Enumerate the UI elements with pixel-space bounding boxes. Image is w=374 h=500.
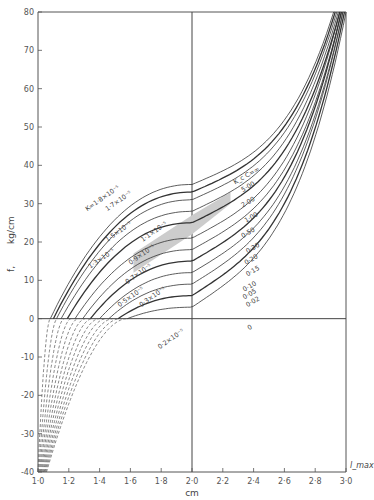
x-tick-label: 1·0 bbox=[32, 477, 45, 486]
x-axis-title: cm bbox=[185, 488, 199, 498]
y-tick-label: -40 bbox=[21, 468, 34, 477]
axes: 1·01·21·41·61·82·02·22·42·62·83·0-40-30-… bbox=[21, 8, 352, 486]
series-curve bbox=[75, 12, 340, 319]
dashed-curve bbox=[42, 319, 85, 472]
right-curve-label: 0 bbox=[246, 323, 254, 332]
left-curve-label: 0·2×10⁻⁵ bbox=[156, 327, 186, 351]
series-curve bbox=[67, 12, 340, 319]
x-tick-label: 2·6 bbox=[278, 477, 291, 486]
dashed-curve bbox=[45, 319, 113, 472]
x-tick-label: 2·4 bbox=[247, 477, 260, 486]
dashed-curve bbox=[46, 319, 120, 472]
dashed-curve bbox=[41, 319, 78, 472]
y-tick-label: 10 bbox=[24, 276, 34, 285]
dashed-curves bbox=[38, 319, 127, 472]
curves bbox=[50, 12, 346, 319]
y-tick-label: 70 bbox=[24, 46, 34, 55]
y-tick-label: 40 bbox=[24, 161, 34, 170]
series-curve bbox=[61, 12, 338, 319]
right-curve-label: 1·00 bbox=[243, 210, 260, 224]
x-tick-label: 1·2 bbox=[62, 477, 75, 486]
right-curve-label: 2·00 bbox=[240, 195, 257, 209]
y-tick-label: 20 bbox=[24, 238, 34, 247]
x-tick-label: 2·8 bbox=[309, 477, 322, 486]
y-tick-label: 30 bbox=[24, 200, 34, 209]
x-tick-label: 1·4 bbox=[93, 477, 106, 486]
y-tick-label: 60 bbox=[24, 85, 34, 94]
x-tick-label: 3·0 bbox=[340, 477, 353, 486]
y-tick-label: 80 bbox=[24, 8, 34, 17]
x-tick-label: 2·2 bbox=[216, 477, 229, 486]
x-tick-label: 2·0 bbox=[186, 477, 199, 486]
dashed-curve bbox=[47, 319, 127, 472]
series-curve bbox=[127, 12, 346, 319]
y-tick-label: -10 bbox=[21, 353, 34, 362]
dashed-curve bbox=[43, 319, 98, 472]
curve-labels: K_c C=∞5·002·001·000·500·300·200·150·100… bbox=[84, 165, 261, 351]
x-axis-lmax-label: l_max bbox=[350, 461, 374, 470]
series-curve bbox=[90, 12, 341, 319]
series-curve bbox=[118, 12, 344, 319]
x-tick-label: 1·6 bbox=[124, 477, 137, 486]
y-tick-label: -20 bbox=[21, 391, 34, 400]
y-tick-label: 0 bbox=[29, 315, 34, 324]
series-curve bbox=[53, 12, 335, 319]
y-axis-units: kg/cm bbox=[6, 216, 16, 244]
y-axis-symbol: f, bbox=[6, 266, 16, 272]
y-tick-label: 50 bbox=[24, 123, 34, 132]
dashed-curve bbox=[44, 319, 106, 472]
x-tick-label: 1·8 bbox=[155, 477, 168, 486]
y-tick-label: -30 bbox=[21, 430, 34, 439]
chart: 1·01·21·41·61·82·02·22·42·62·83·0-40-30-… bbox=[0, 0, 374, 500]
